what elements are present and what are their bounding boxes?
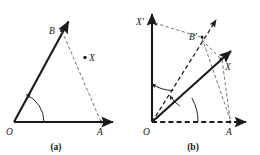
panel-b-point-bprime-dot [201,36,204,39]
panel-b-label-xprime: X' [135,17,145,27]
panel-b-arc-outer [152,84,173,91]
panel-b-dashed-bprime-a [202,38,230,119]
panel-a-angle-arc [26,95,44,122]
panel-b-label-bprime: B' [189,32,198,42]
panel-b-caption: (b) [187,142,199,153]
panel-a-caption: (a) [50,142,61,153]
panel-a-label-x: X [88,53,96,63]
panel-a-label-o: O [6,127,13,137]
panel-a-ob-ray [14,22,69,123]
panel-b-label-a: A [225,127,232,137]
panel-b-dashed-bprime-x [202,40,221,59]
panel-b-point-x-dot [220,58,223,61]
panel-b-ob-prime-ray [152,20,216,122]
panel-b-label-x: X [224,62,232,72]
panel-a-label-a: A [96,127,103,137]
panel-a: O A B X (a) [0,0,130,155]
figure-root: O A B X (a) [0,0,260,155]
panel-a-point-b-dot [60,29,63,32]
panel-a-dashed-ba [62,31,101,122]
panel-b-point-xprime-dot [151,21,154,24]
panel-b-arc-inner [192,98,198,122]
panel-a-label-b: B [49,26,55,36]
panel-b-label-o: O [143,127,150,137]
panel-a-point-x-dot [83,56,86,59]
panel-a-point-a-dot [100,121,103,124]
panel-b: O A X' B' X (b) [130,0,260,155]
panel-b-point-a-dot [229,121,232,124]
